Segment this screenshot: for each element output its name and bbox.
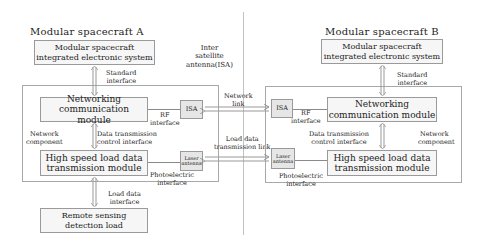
connector-arrows <box>0 0 481 246</box>
